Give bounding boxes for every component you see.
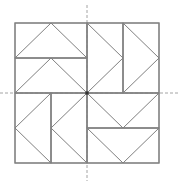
triangle-bl-1 [15,93,51,163]
triangle-tl-1 [15,23,87,58]
rectangle-tr-1 [87,23,123,93]
center-point-marker [85,91,89,95]
triangle-br-2 [87,128,159,163]
rectangle-tl-2 [15,58,87,93]
rectangle-bl-2 [51,93,87,163]
triangle-tr-2 [123,23,159,93]
triangle-bl-2 [51,93,87,163]
rectangle-tr-2 [123,23,159,93]
quilt-symmetry-diagram [0,0,185,189]
triangle-br-1 [87,93,159,128]
rectangle-br-1 [87,93,159,128]
rectangle-tl-1 [15,23,87,58]
triangle-tl-2 [15,58,87,93]
triangle-tr-1 [87,23,123,93]
rectangle-bl-1 [15,93,51,163]
rectangle-br-2 [87,128,159,163]
